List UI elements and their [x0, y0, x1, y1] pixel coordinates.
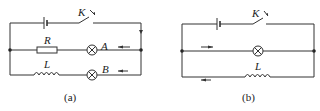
switch-k-a: [79, 10, 141, 23]
resistor-r: [37, 47, 57, 53]
circuit-diagrams: K R A L: [0, 0, 320, 111]
current-arrow-left-bottom-b: [201, 79, 211, 82]
resistor-label: R: [43, 34, 51, 46]
inductor-label-a: L: [43, 58, 50, 70]
circuit-b: K L (b): [180, 7, 316, 104]
inductor-l-a: [34, 73, 59, 76]
battery-b: [217, 18, 220, 30]
current-arrow-right-b: [201, 46, 213, 49]
lamp-a: [87, 45, 97, 55]
switch-label-b: K: [251, 7, 260, 19]
current-arrow-left-b: [118, 70, 128, 73]
lamp-b-circuit: [253, 46, 263, 56]
lamp-b: [87, 70, 97, 80]
current-arrow-left-a: [118, 46, 130, 49]
circuit-a: K R A L: [8, 6, 143, 104]
lamp-a-label: A: [100, 40, 108, 52]
battery-a: [44, 17, 47, 29]
switch-label-a: K: [77, 6, 86, 18]
switch-k-b: [253, 11, 314, 24]
caption-b: (b): [242, 91, 255, 104]
caption-a: (a): [64, 91, 77, 104]
inductor-l-b: [245, 75, 270, 78]
lamp-b-label: B: [102, 63, 109, 75]
current-arrow-down-a: [139, 30, 143, 34]
inductor-label-b: L: [254, 60, 261, 72]
